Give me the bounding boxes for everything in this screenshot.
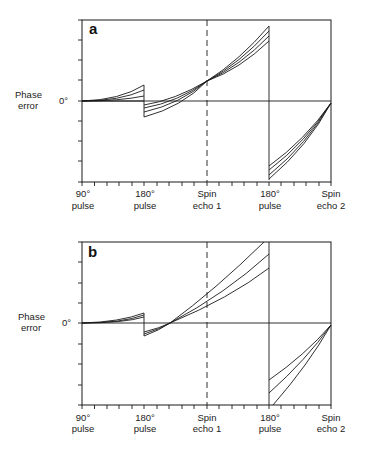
panel-a-xlabel-spin-echo-2-2: echo 2 [317,200,346,211]
panel-b-zero-label: 0° [62,317,71,328]
panel-b-xlabel-spin-echo-1: Spin [197,412,216,423]
panel-b-curve-6 [144,268,269,332]
panel-b-curve-4 [144,242,264,336]
panel-a-xlabel-second-180: 180° [260,188,280,199]
panel-b-xlabel-90-pulse-2: pulse [72,423,95,434]
panel-a-zero-label: 0° [59,95,68,106]
panel-a-curve-9 [269,103,331,166]
panel-a-x-ticks [82,182,331,186]
panel-a-xlabel-second-180-2: pulse [259,200,282,211]
panel-a-xlabel-spin-echo-2: Spin [321,188,340,199]
panel-b-xlabel-180-pulse: 180° [135,412,155,423]
panel-b-y-ticks [78,242,82,405]
panel-b-xlabel-spin-echo-2-2: echo 2 [317,423,346,434]
panel-a-xlabel-spin-echo-1-2: echo 1 [193,200,222,211]
panel-a-xlabel-90-pulse: 90° [76,188,91,199]
panel-a-curve-8 [144,41,269,117]
panel-b-xlabel-spin-echo-2: Spin [321,412,340,423]
panel-a-x-labels: 90° pulse 180° pulse Spin echo 1 180° pu… [72,188,346,211]
panel-a-curve-2 [82,90,144,101]
panel-a-curve-10 [269,103,331,170]
panel-a-curve-11 [269,103,331,175]
panel-b-label: b [88,243,97,260]
panel-a-y-ticks [78,20,82,182]
panel-a-xlabel-spin-echo-1: Spin [197,188,216,199]
panel-a [78,20,331,186]
panel-b [78,242,331,409]
panel-a-label: a [89,20,98,37]
panel-b-xlabel-90-pulse: 90° [76,412,91,423]
panel-b-xlabel-spin-echo-1-2: echo 1 [193,423,222,434]
panel-b-xlabel-second-180-2: pulse [259,423,282,434]
panel-b-x-labels: 90° pulse 180° pulse Spin echo 1 180° pu… [72,412,346,434]
panel-b-x-ticks [82,405,331,409]
panel-a-curve-5 [144,26,269,105]
panel-b-xlabel-second-180: 180° [260,412,280,423]
figure-canvas: a Phase error 0° 90° pulse 180° pulse Sp… [0,0,369,454]
panel-b-xlabel-180-pulse-2: pulse [134,423,157,434]
panel-a-y-label-line2: error [18,100,38,111]
panel-a-xlabel-90-pulse-2: pulse [72,200,95,211]
panel-b-y-label-line1: Phase [18,311,45,322]
panel-b-y-label-line2: error [21,322,41,333]
panel-a-xlabel-180-pulse-2: pulse [134,200,157,211]
panel-a-xlabel-180-pulse: 180° [135,188,155,199]
panel-a-y-label-line1: Phase [15,89,42,100]
panel-a-curve-6 [144,31,269,108]
